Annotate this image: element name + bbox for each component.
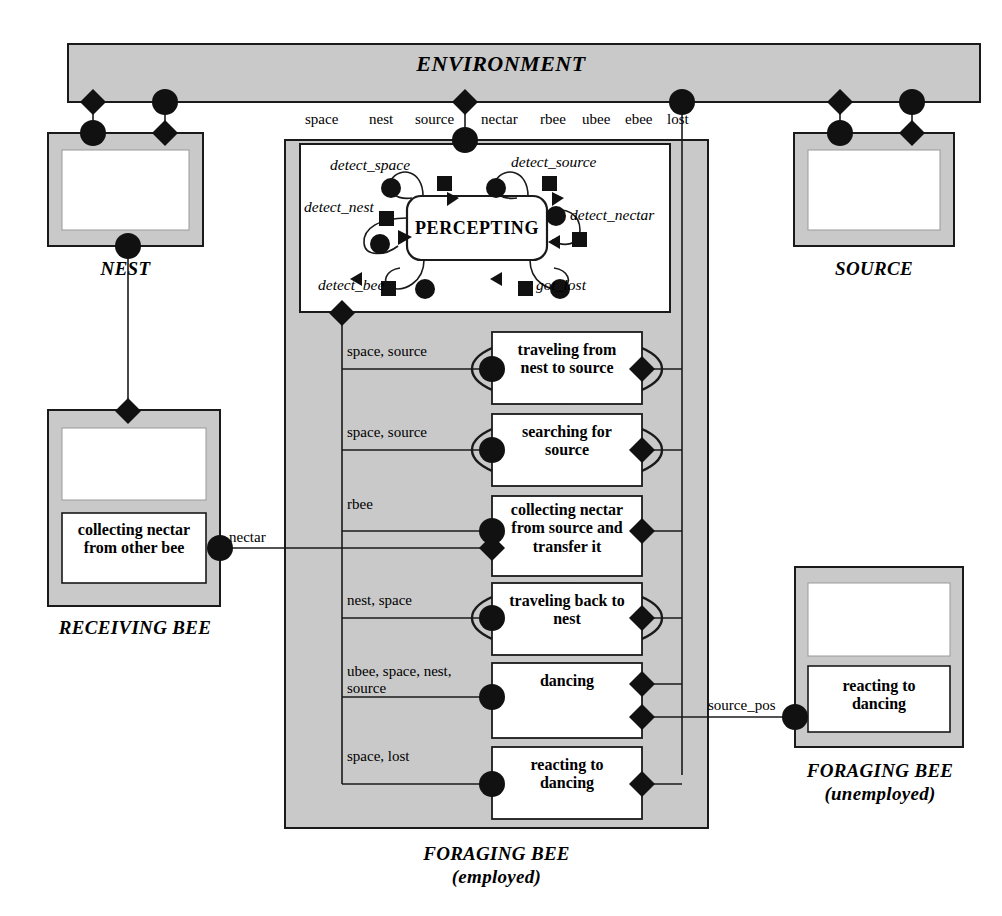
caption-nest: NEST	[48, 258, 203, 279]
receiving-bee-block[interactable]	[48, 410, 220, 606]
activity-label-traveling-back-to-nest[interactable]: traveling back to nest	[492, 592, 642, 629]
port-label-ubee: ubee	[582, 111, 610, 128]
foraging-bee-unemployed-block[interactable]	[795, 567, 963, 747]
port-label-nest: nest	[369, 111, 393, 128]
port-label-rbee: rbee	[540, 111, 566, 128]
environment-title: ENVIRONMENT	[0, 52, 1002, 77]
port-circle	[899, 89, 925, 115]
transition-label-detect-space: detect_space	[330, 156, 410, 173]
transition-label-detect-source: detect_source	[511, 153, 597, 170]
port-label-space: space	[305, 111, 338, 128]
activity-label-unemployed-reacting-to-dancing[interactable]: reacting to dancing	[808, 677, 950, 714]
input-label-traveling-from-nest-to-source: space, source	[347, 343, 427, 360]
diagram-canvas: ENVIRONMENT space nest source nectar rbe…	[0, 0, 1002, 916]
activity-label-reacting-to-dancing[interactable]: reacting to dancing	[492, 756, 642, 793]
input-label-collecting-nectar-from-source: rbee	[347, 496, 373, 513]
input-label-traveling-back-to-nest: nest, space	[347, 592, 412, 609]
port-label-lost: lost	[667, 111, 689, 128]
nest-block[interactable]	[48, 133, 203, 246]
caption-foraging-bee-unemployed-line2: (unemployed)	[785, 783, 975, 804]
caption-receiving-bee: RECEIVING BEE	[30, 617, 240, 638]
percepting-state-label: PERCEPTING	[407, 218, 547, 238]
source-block[interactable]	[794, 133, 954, 246]
port-label-ebee: ebee	[625, 111, 652, 128]
caption-source: SOURCE	[794, 258, 954, 279]
port-circle	[152, 89, 178, 115]
input-label-searching-for-source: space, source	[347, 424, 427, 441]
input-label-dancing: ubee, space, nest, source	[347, 663, 497, 697]
transition-label-detect-nest: detect_nest	[304, 198, 374, 215]
transition-label-detect-bee: detect_bee	[318, 276, 384, 293]
edge-label-nectar: nectar	[229, 529, 266, 546]
caption-foraging-bee-employed-line1: FORAGING BEE	[285, 843, 708, 864]
activity-label-collecting-nectar-from-other-bee[interactable]: collecting nectar from other bee	[62, 521, 206, 558]
input-label-reacting-to-dancing: space, lost	[347, 748, 409, 765]
port-label-source: source	[415, 111, 454, 128]
activity-label-dancing[interactable]: dancing	[492, 672, 642, 690]
caption-foraging-bee-unemployed-line1: FORAGING BEE	[785, 760, 975, 781]
transition-label-got-lost: got_lost	[536, 276, 586, 293]
transition-label-detect-nectar: detect_nectar	[570, 206, 654, 223]
activity-label-traveling-from-nest-to-source[interactable]: traveling from nest to source	[492, 341, 642, 378]
activity-label-collecting-nectar-from-source[interactable]: collecting nectar from source and transf…	[492, 501, 642, 556]
edge-label-source-pos: source_pos	[708, 697, 776, 714]
activity-label-searching-for-source[interactable]: searching for source	[492, 423, 642, 460]
caption-foraging-bee-employed-line2: (employed)	[285, 866, 708, 887]
port-label-nectar: nectar	[481, 111, 518, 128]
